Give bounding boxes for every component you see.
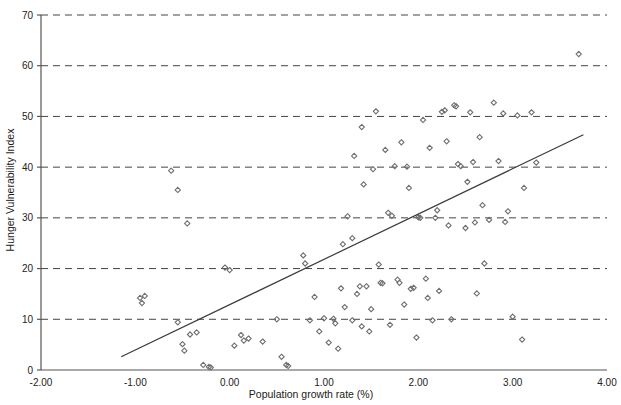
y-tick-label-70: 70	[22, 10, 34, 21]
data-point	[515, 113, 520, 118]
data-point	[521, 185, 526, 190]
data-points	[137, 51, 581, 370]
data-point	[336, 346, 341, 351]
data-point	[350, 236, 355, 241]
data-point	[534, 160, 539, 165]
data-point	[169, 168, 174, 173]
y-tick-label-60: 60	[22, 60, 34, 71]
data-point	[369, 307, 374, 312]
data-point	[359, 324, 364, 329]
data-point	[326, 340, 331, 345]
data-point	[279, 354, 284, 359]
data-point	[423, 276, 428, 281]
data-point	[357, 284, 362, 289]
data-point	[576, 51, 581, 56]
y-tick-label-40: 40	[22, 162, 34, 173]
data-point	[307, 318, 312, 323]
data-point	[367, 329, 372, 334]
x-tick-label-3.00: 3.00	[503, 377, 523, 388]
data-point	[238, 332, 243, 337]
x-tick-label--2.00: -2.00	[30, 377, 53, 388]
data-point	[361, 182, 366, 187]
data-point	[182, 348, 187, 353]
data-point	[352, 153, 357, 158]
data-point	[406, 185, 411, 190]
scatter-chart: 010203040506070-2.00-1.000.001.002.003.0…	[0, 0, 621, 405]
data-point	[510, 314, 515, 319]
data-point	[414, 335, 419, 340]
data-point	[482, 261, 487, 266]
data-point	[435, 208, 440, 213]
data-point	[491, 100, 496, 105]
data-point	[404, 164, 409, 169]
y-tick-label-0: 0	[27, 365, 33, 376]
x-axis-title: Population growth rate (%)	[249, 388, 373, 400]
data-point	[480, 203, 485, 208]
data-point	[222, 265, 227, 270]
data-point	[342, 305, 347, 310]
data-point	[338, 286, 343, 291]
data-point	[496, 158, 501, 163]
data-point	[185, 221, 190, 226]
data-point	[430, 318, 435, 323]
data-point	[232, 343, 237, 348]
y-tick-label-30: 30	[22, 212, 34, 223]
data-point	[383, 147, 388, 152]
chart-canvas: 010203040506070-2.00-1.000.001.002.003.0…	[0, 0, 621, 405]
data-point	[350, 318, 355, 323]
data-point	[477, 135, 482, 140]
x-tick-label-2.00: 2.00	[409, 377, 429, 388]
gridlines	[41, 15, 607, 319]
y-tick-label-10: 10	[22, 314, 34, 325]
x-tick-label-1.00: 1.00	[314, 377, 334, 388]
data-point	[472, 220, 477, 225]
data-point	[312, 294, 317, 299]
data-point	[392, 164, 397, 169]
data-point	[503, 219, 508, 224]
data-point	[201, 362, 206, 367]
data-point	[463, 225, 468, 230]
data-point	[175, 320, 180, 325]
data-point	[427, 145, 432, 150]
data-point	[425, 295, 430, 300]
data-point	[376, 262, 381, 267]
data-point	[387, 322, 392, 327]
data-point	[354, 291, 359, 296]
data-point	[194, 330, 199, 335]
data-point	[364, 284, 369, 289]
x-tick-label--1.00: -1.00	[124, 377, 147, 388]
data-point	[373, 109, 378, 114]
data-point	[520, 337, 525, 342]
y-axis-title: Hunger Vulnerability Index	[4, 128, 16, 252]
data-point	[175, 187, 180, 192]
data-point	[260, 339, 265, 344]
data-point	[321, 316, 326, 321]
data-point	[359, 124, 364, 129]
data-point	[420, 117, 425, 122]
data-point	[446, 223, 451, 228]
data-point	[474, 291, 479, 296]
y-tick-label-20: 20	[22, 263, 34, 274]
x-tick-label-4.00: 4.00	[597, 377, 617, 388]
data-point	[301, 253, 306, 258]
data-point	[187, 332, 192, 337]
data-point	[529, 110, 534, 115]
data-point	[468, 110, 473, 115]
data-point	[180, 342, 185, 347]
data-point	[340, 242, 345, 247]
tick-labels: 010203040506070-2.00-1.000.001.002.003.0…	[22, 10, 617, 389]
y-tick-label-50: 50	[22, 111, 34, 122]
data-point	[399, 140, 404, 145]
data-point	[444, 139, 449, 144]
data-point	[465, 179, 470, 184]
data-point	[470, 159, 475, 164]
data-point	[303, 261, 308, 266]
data-point	[317, 329, 322, 334]
data-point	[436, 288, 441, 293]
data-point	[501, 111, 506, 116]
data-point	[505, 209, 510, 214]
axes	[37, 15, 607, 370]
x-tick-label-0.00: 0.00	[220, 377, 240, 388]
data-point	[402, 302, 407, 307]
